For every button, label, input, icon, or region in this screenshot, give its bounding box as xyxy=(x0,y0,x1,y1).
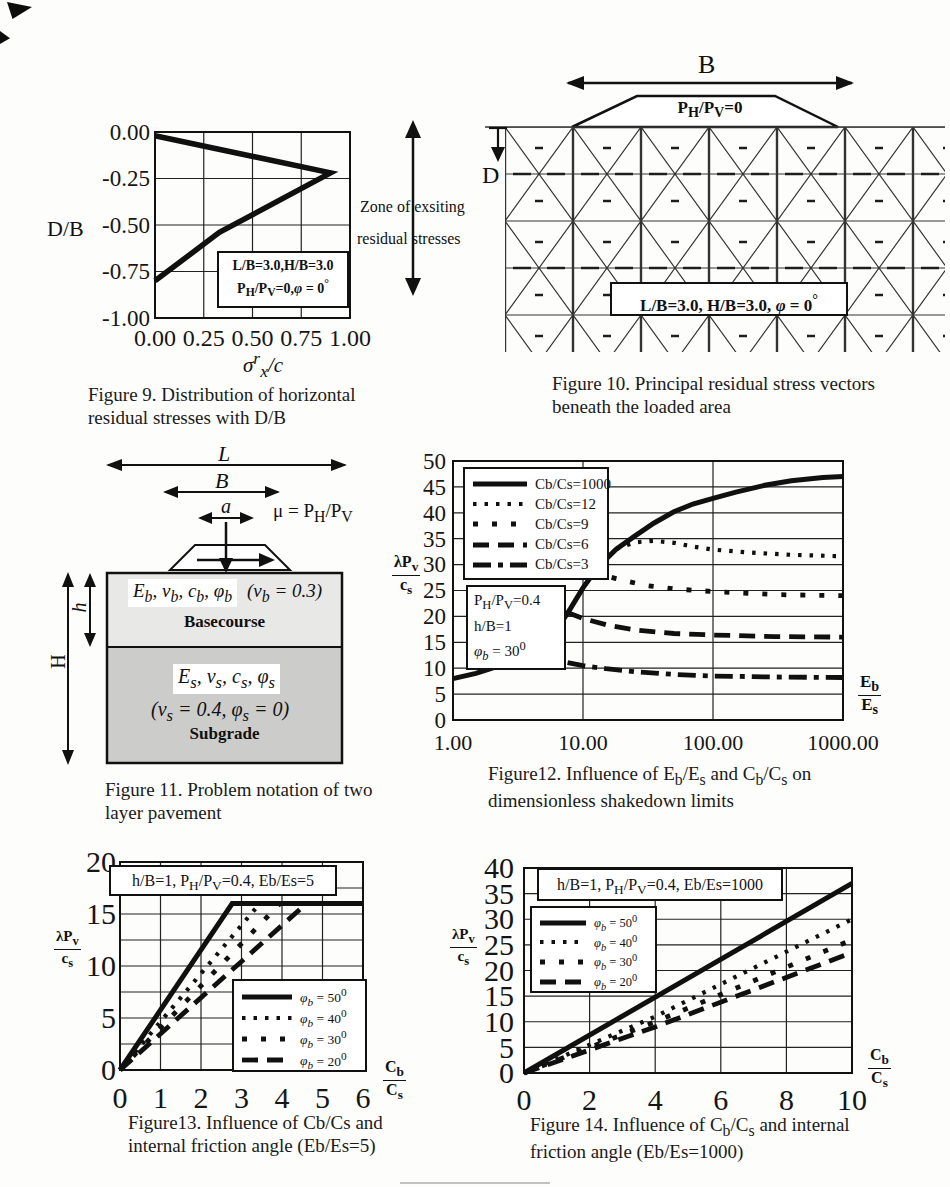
legend-label: φb = 400 xyxy=(300,1007,347,1028)
scanned-paper-page: { "zone_note": { "line1": "Zone of exsit… xyxy=(0,0,950,1187)
scan-artifact-left-edge xyxy=(0,31,10,44)
svg-text:15: 15 xyxy=(86,897,116,930)
fig12-x-axis-label: Eb Es xyxy=(858,673,881,717)
fig14-annotation-box: h/B=1, PH/PV=0.4, Eb/Es=1000 xyxy=(537,868,783,901)
legend-line-sample xyxy=(241,1013,293,1023)
legend-line-sample xyxy=(241,1055,293,1065)
legend-item: Cb/Cs=6 xyxy=(472,536,600,553)
fig13-caption: Figure13. Influence of Cb/Cs and interna… xyxy=(128,1111,428,1157)
figure12: 1.0010.00100.001000.00051015202530354045… xyxy=(390,440,950,805)
legend-item: φb = 200 xyxy=(539,972,648,992)
fig12-caption: Figure12. Influence of Eb/Es and Cb/Cs o… xyxy=(488,762,833,812)
fig11-a-label: a xyxy=(221,495,231,518)
fig12-legend: Cb/Cs=1000Cb/Cs=12Cb/Cs=9Cb/Cs=6Cb/Cs=3 xyxy=(463,467,609,580)
legend-line-sample xyxy=(539,957,587,967)
fig11-basecourse-params: Eb, νb, cb, φb xyxy=(128,579,237,607)
svg-text:15: 15 xyxy=(423,630,446,655)
svg-text:4: 4 xyxy=(648,1083,663,1116)
fe-mesh xyxy=(505,127,945,352)
legend-item: φb = 300 xyxy=(241,1028,358,1049)
figure14: 02468100510152025303540 λPv cs Cb Cs h/B… xyxy=(450,818,950,1187)
fig13-annotation-box: h/B=1, PH/PV=0.4, Eb/Es=5 xyxy=(109,865,337,896)
fig9-x-axis-label: σrx/c xyxy=(243,348,283,382)
fig9-annotation-box: L/B=3.0,H/B=3.0PH/PV=0,φ = 0° xyxy=(217,251,349,308)
svg-text:30: 30 xyxy=(423,552,446,577)
svg-text:-0.75: -0.75 xyxy=(102,259,150,284)
svg-text:-0.25: -0.25 xyxy=(102,166,150,191)
svg-text:0: 0 xyxy=(435,708,447,733)
fig9-y-axis-label: D/B xyxy=(47,216,84,242)
zone-note-line1: Zone of exsiting xyxy=(360,198,465,216)
fig13-y-axis-label: λPv cs xyxy=(54,928,81,970)
svg-text:5: 5 xyxy=(435,682,447,707)
legend-label: φb = 300 xyxy=(594,952,637,972)
legend-label: φb = 300 xyxy=(300,1028,347,1049)
svg-text:45: 45 xyxy=(423,475,446,500)
fig14-caption: Figure 14. Influence of Cb/Cs and intern… xyxy=(530,1113,885,1163)
legend-line-sample xyxy=(539,937,587,947)
figure9: 0.000.250.500.751.000.00-0.25-0.50-0.75-… xyxy=(45,80,395,442)
scan-artifact-top-left xyxy=(7,2,32,19)
fig11-l-label: L xyxy=(218,441,230,467)
svg-text:2: 2 xyxy=(582,1083,597,1116)
legend-item: φb = 500 xyxy=(241,986,358,1007)
fig11-h-layer-label: h xyxy=(68,603,91,613)
svg-text:0.75: 0.75 xyxy=(280,325,322,351)
legend-item: φb = 400 xyxy=(241,1007,358,1028)
svg-text:100.00: 100.00 xyxy=(683,730,744,755)
legend-item: φb = 500 xyxy=(539,913,648,933)
zone-note-line2: residual stresses xyxy=(357,230,461,248)
legend-item: Cb/Cs=9 xyxy=(472,516,600,533)
legend-item: Cb/Cs=1000 xyxy=(472,476,600,493)
svg-text:10: 10 xyxy=(423,656,446,681)
legend-label: φb = 400 xyxy=(594,933,637,953)
svg-text:0.00: 0.00 xyxy=(110,120,150,145)
svg-text:1000.00: 1000.00 xyxy=(807,730,879,755)
fig11-subgrade-poisson: (νs = 0.4, φs = 0) xyxy=(151,698,289,726)
legend-label: φb = 500 xyxy=(594,913,637,933)
load-trapezoid xyxy=(170,545,290,570)
figure13: 012345605101520 λPv cs Cb Cs h/B=1, PH/P… xyxy=(40,818,465,1187)
legend-label: Cb/Cs=9 xyxy=(535,516,588,533)
svg-text:10.00: 10.00 xyxy=(558,730,608,755)
svg-text:40: 40 xyxy=(423,501,446,526)
legend-item: φb = 400 xyxy=(539,933,648,953)
fig9-plot: 0.000.250.500.751.000.00-0.25-0.50-0.75-… xyxy=(45,80,395,380)
legend-item: φb = 200 xyxy=(241,1050,358,1071)
svg-text:5: 5 xyxy=(315,1081,330,1113)
svg-text:1: 1 xyxy=(153,1081,168,1113)
svg-text:2: 2 xyxy=(194,1081,209,1113)
svg-text:40: 40 xyxy=(484,851,514,884)
svg-text:-0.50: -0.50 xyxy=(102,213,150,238)
svg-text:5: 5 xyxy=(101,1001,116,1034)
fig11-mu-equation: μ = PH/PV xyxy=(273,500,353,526)
legend-label: Cb/Cs=3 xyxy=(535,556,588,573)
fig11-h-total-label: H xyxy=(47,654,70,668)
fig10-b-label: B xyxy=(698,50,715,80)
legend-label: Cb/Cs=6 xyxy=(535,536,588,553)
legend-item: Cb/Cs=12 xyxy=(472,496,600,513)
fig14-legend: φb = 500φb = 400φb = 300φb = 200 xyxy=(530,906,657,993)
legend-line-sample xyxy=(472,519,528,529)
svg-text:35: 35 xyxy=(423,527,446,552)
legend-line-sample xyxy=(472,540,528,550)
legend-label: Cb/Cs=12 xyxy=(535,496,596,513)
fig12-annotation-box: PH/PV=0.4h/B=1φb = 300 xyxy=(466,585,566,670)
legend-item: Cb/Cs=3 xyxy=(472,556,600,573)
legend-line-sample xyxy=(539,977,587,987)
fig11-subgrade-name: Subgrade xyxy=(107,724,342,744)
fig11-basecourse-name: Basecourse xyxy=(107,612,342,632)
fig14-y-axis-label: λPv cs xyxy=(450,926,477,968)
svg-text:25: 25 xyxy=(423,578,446,603)
fig13-x-axis-label: Cb Cs xyxy=(383,1058,406,1102)
svg-text:8: 8 xyxy=(779,1083,794,1116)
fig10-load-label: PH/PV=0 xyxy=(648,98,772,121)
legend-line-sample xyxy=(539,918,587,928)
fig11-b-label: B xyxy=(215,468,228,494)
svg-text:-1.00: -1.00 xyxy=(102,306,150,331)
figure10: B PH/PV=0 D L/B=3.0, H/B=3.0, φ = 0° Fig… xyxy=(480,50,950,425)
svg-text:4: 4 xyxy=(275,1081,290,1113)
fig10-annotation-box: L/B=3.0, H/B=3.0, φ = 0° xyxy=(610,282,848,316)
fig12-y-axis-label: λPv cs xyxy=(392,553,420,597)
fig11-basecourse-poisson: (νb = 0.3) xyxy=(247,580,322,606)
